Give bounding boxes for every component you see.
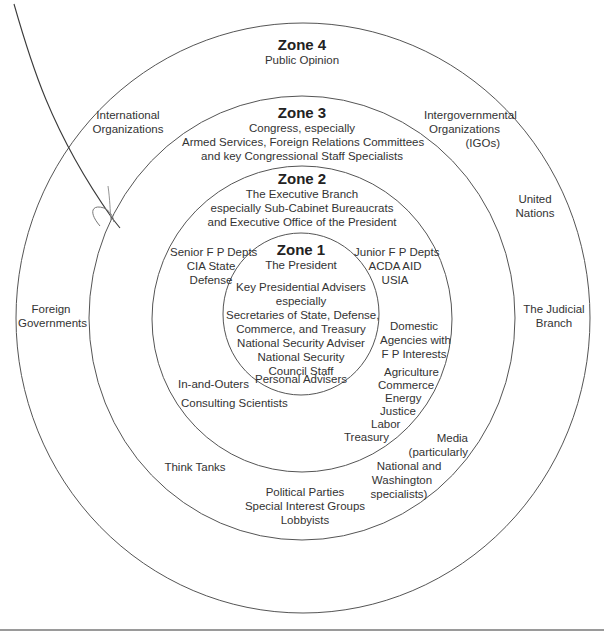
zone3-label: Zone 3 Congress, especially Armed Servic… xyxy=(182,104,422,163)
key-presidential-advisers-label: Key Presidential Advisers especially Sec… xyxy=(226,280,376,378)
cropped-text-line xyxy=(0,0,604,4)
international-organizations-label: International Organizations xyxy=(88,108,168,136)
zone4-label: Zone 4 Public Opinion xyxy=(232,36,372,67)
bottom-rule xyxy=(0,629,604,631)
united-nations-label: United Nations xyxy=(510,192,560,220)
personal-advisers-label: Personal Advisers xyxy=(246,372,356,386)
zone2-title: Zone 2 xyxy=(187,170,417,187)
political-parties-label: Political Parties Special Interest Group… xyxy=(240,485,370,527)
domestic-agencies-label: Domestic Agencies with F P Interests xyxy=(380,319,448,361)
zone1-subtitle: The President xyxy=(236,258,366,272)
zone3-title: Zone 3 xyxy=(182,104,422,121)
judicial-branch-label: The Judicial Branch xyxy=(520,302,588,330)
zone2-label: Zone 2 The Executive Branch especially S… xyxy=(187,170,417,229)
in-and-outers-label: In-and-Outers xyxy=(178,377,249,391)
consulting-scientists-label: Consulting Scientists xyxy=(181,396,288,410)
zone4-title: Zone 4 xyxy=(232,36,372,53)
zone1-label: Zone 1 The President xyxy=(236,241,366,272)
foreign-governments-label: Foreign Governments xyxy=(18,302,84,330)
igos-label: Intergovernmental Organizations (IGOs) xyxy=(424,108,500,150)
zone1-title: Zone 1 xyxy=(236,241,366,258)
zone4-subtitle: Public Opinion xyxy=(232,53,372,67)
think-tanks-label: Think Tanks xyxy=(160,460,230,474)
